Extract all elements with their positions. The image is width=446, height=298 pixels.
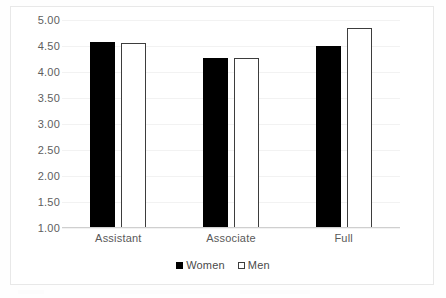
y-axis: 5.004.504.003.503.002.502.001.501.00 bbox=[14, 0, 60, 298]
x-axis-tick-label: Associate bbox=[206, 232, 256, 244]
legend-item-women: Women bbox=[176, 259, 225, 271]
bar-group bbox=[203, 20, 259, 228]
y-axis-tick-label: 1.00 bbox=[14, 222, 60, 234]
y-axis-tick-label: 4.00 bbox=[14, 66, 60, 78]
y-axis-tick-label: 2.00 bbox=[14, 170, 60, 182]
bar-women-full bbox=[316, 46, 341, 228]
bar-group bbox=[90, 20, 146, 228]
bar-men-full bbox=[347, 28, 372, 228]
legend-item-men: Men bbox=[238, 259, 270, 271]
page-artifacts bbox=[0, 288, 446, 298]
bar-men-associate bbox=[234, 58, 259, 228]
y-axis-tick-label: 2.50 bbox=[14, 144, 60, 156]
x-axis-line bbox=[62, 227, 400, 228]
bar-women-associate bbox=[203, 58, 228, 228]
y-axis-tick-label: 1.50 bbox=[14, 196, 60, 208]
y-axis-tick-label: 4.50 bbox=[14, 40, 60, 52]
x-axis-category-labels: AssistantAssociateFull bbox=[62, 232, 400, 250]
bar-group bbox=[316, 20, 372, 228]
x-axis-tick-label: Assistant bbox=[95, 232, 141, 244]
bar-women-assistant bbox=[90, 42, 115, 228]
legend-label: Women bbox=[186, 259, 225, 271]
y-axis-tick-label: 5.00 bbox=[14, 14, 60, 26]
chart-legend: WomenMen bbox=[0, 259, 446, 271]
plot-area bbox=[62, 20, 400, 228]
legend-label: Men bbox=[248, 259, 270, 271]
hollow-square-icon bbox=[238, 262, 245, 269]
y-axis-tick-label: 3.50 bbox=[14, 92, 60, 104]
gridline bbox=[62, 228, 400, 229]
bar-chart-figure: 5.004.504.003.503.002.502.001.501.00 Ass… bbox=[0, 0, 446, 298]
x-axis-tick-label: Full bbox=[334, 232, 353, 244]
y-axis-tick-label: 3.00 bbox=[14, 118, 60, 130]
filled-square-icon bbox=[176, 262, 183, 269]
bar-men-assistant bbox=[121, 43, 146, 228]
